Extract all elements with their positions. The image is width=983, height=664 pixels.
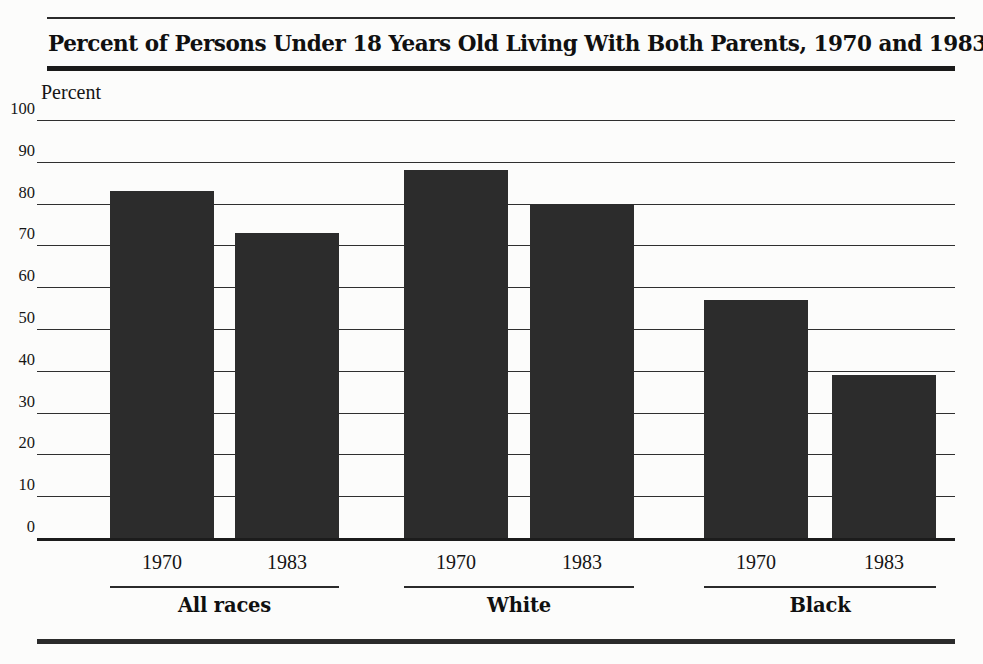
y-tick-label-40: 40 xyxy=(1,352,35,368)
x-year-label-all-races-1970: 1970 xyxy=(110,550,214,574)
group-rule-white xyxy=(404,586,634,588)
group-rule-black xyxy=(704,586,936,588)
y-tick-label-10: 10 xyxy=(1,477,35,493)
gridline-100 xyxy=(37,120,955,121)
top-rule xyxy=(47,17,955,19)
y-tick-label-100: 100 xyxy=(1,101,35,117)
bar-all-races-1983 xyxy=(235,233,339,538)
bar-all-races-1970 xyxy=(110,191,214,538)
x-year-label-all-races-1983: 1983 xyxy=(235,550,339,574)
plot-area: 1009080706050403020100 xyxy=(37,120,955,538)
chart-title: Percent of Persons Under 18 Years Old Li… xyxy=(48,28,958,60)
x-axis-area: 197019831970198319701983All racesWhiteBl… xyxy=(37,538,955,638)
x-year-label-white-1970: 1970 xyxy=(404,550,508,574)
bar-black-1983 xyxy=(832,375,936,538)
chart-figure: Percent of Persons Under 18 Years Old Li… xyxy=(0,0,983,664)
y-tick-label-70: 70 xyxy=(1,226,35,242)
y-tick-label-20: 20 xyxy=(1,435,35,451)
y-tick-label-30: 30 xyxy=(1,394,35,410)
y-axis-title: Percent xyxy=(41,80,101,104)
x-year-label-white-1983: 1983 xyxy=(530,550,634,574)
gridline-90 xyxy=(37,162,955,163)
group-label-black: Black xyxy=(704,593,936,619)
bar-black-1970 xyxy=(704,300,808,538)
group-rule-all-races xyxy=(110,586,339,588)
group-label-all-races: All races xyxy=(110,593,339,619)
x-year-label-black-1983: 1983 xyxy=(832,550,936,574)
y-tick-label-50: 50 xyxy=(1,310,35,326)
y-tick-label-0: 0 xyxy=(1,519,35,535)
bottom-rule xyxy=(37,639,955,644)
group-label-white: White xyxy=(404,593,634,619)
bar-white-1970 xyxy=(404,170,508,538)
x-year-label-black-1970: 1970 xyxy=(704,550,808,574)
y-tick-label-90: 90 xyxy=(1,143,35,159)
y-tick-label-80: 80 xyxy=(1,185,35,201)
y-tick-label-60: 60 xyxy=(1,268,35,284)
title-underline-rule xyxy=(47,66,955,71)
bar-white-1983 xyxy=(530,204,634,538)
